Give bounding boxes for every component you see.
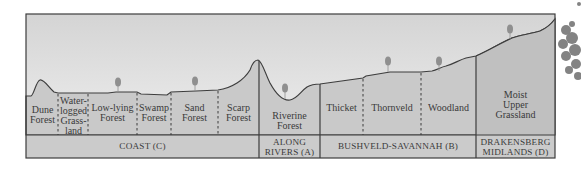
vegetation-label-dune-forest: Dune Forest (26, 105, 59, 125)
region-label-drakensberg-midlands: DRAKENSBERG MIDLANDS (D) (476, 137, 555, 157)
vegetation-label-low-lying-forest: Low-lying Forest (88, 103, 137, 123)
vegetation-label-woodland: Woodland (421, 103, 476, 113)
region-label-coast: COAST (C) (26, 141, 259, 151)
vegetation-cross-section-diagram: Dune Forest Water- logged Grass- land Lo… (0, 0, 581, 173)
vegetation-label-sand-forest: Sand Forest (171, 103, 218, 123)
region-label-along-rivers: ALONG RIVERS (A) (259, 137, 320, 157)
vegetation-label-scarp-forest: Scarp Forest (218, 103, 259, 123)
vegetation-label-thicket: Thicket (320, 103, 363, 113)
region-label-bushveld-savannah: BUSHVELD-SAVANNAH (B) (320, 141, 476, 151)
vegetation-label-moist-upper-grassland: Moist Upper Grassland (476, 90, 555, 120)
vegetation-label-swamp-forest: Swamp Forest (137, 103, 171, 123)
vegetation-label-waterlogged-grassland: Water- logged Grass- land (58, 96, 89, 136)
vegetation-label-riverine-forest: Riverine Forest (259, 111, 320, 131)
decorative-foliage-icon (558, 2, 581, 80)
vegetation-label-thornveld: Thornveld (363, 103, 421, 113)
